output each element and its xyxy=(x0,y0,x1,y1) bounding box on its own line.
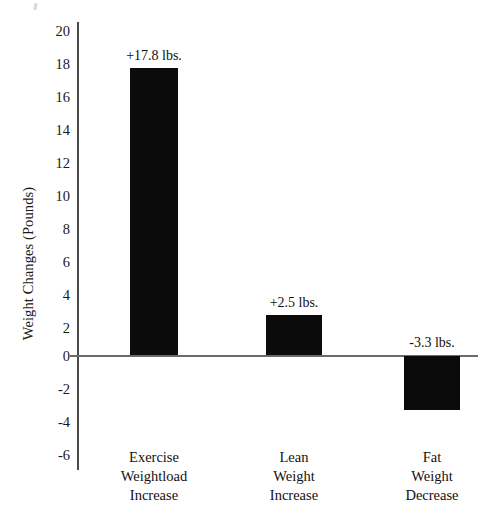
y-axis-title: Weight Changes (Pounds) xyxy=(20,164,37,364)
y-tick-label-14: 14 xyxy=(40,123,70,137)
bar-value-label-lean-weight-increase: +2.5 lbs. xyxy=(244,295,344,310)
zero-axis-tick xyxy=(70,355,78,357)
category-label-line-3: Decrease xyxy=(372,486,483,505)
y-tick-label-4: 4 xyxy=(40,288,70,302)
category-label-line-2: Weight xyxy=(372,467,483,486)
y-tick-label-neg4: -4 xyxy=(40,415,70,429)
y-tick-label-18: 18 xyxy=(40,57,70,71)
y-axis-line xyxy=(77,22,79,470)
category-label-line-2: Weightload xyxy=(94,467,214,486)
y-tick-label-0: 0 xyxy=(40,349,70,363)
bar-value-label-exercise-weightload-increase: +17.8 lbs. xyxy=(104,48,204,63)
y-tick-label-6: 6 xyxy=(40,255,70,269)
category-label-line-3: Increase xyxy=(94,486,214,505)
y-tick-label-20: 20 xyxy=(40,24,70,38)
y-tick-label-12: 12 xyxy=(40,156,70,170)
y-tick-label-neg2: -2 xyxy=(40,382,70,396)
category-label-line-2: Weight xyxy=(234,467,354,486)
bar-fat-weight-decrease xyxy=(404,356,460,410)
y-tick-label-2: 2 xyxy=(40,321,70,335)
bar-lean-weight-increase xyxy=(266,315,322,355)
scan-artifact-speck xyxy=(33,3,37,10)
bar-value-label-fat-weight-decrease: -3.3 lbs. xyxy=(382,335,482,350)
category-label-exercise-weightload-increase: Exercise Weightload Increase xyxy=(94,448,214,505)
bar-chart: Weight Changes (Pounds) 20 18 16 14 12 1… xyxy=(0,0,483,508)
category-label-line-1: Lean xyxy=(234,448,354,467)
y-tick-label-10: 10 xyxy=(40,189,70,203)
y-tick-label-8: 8 xyxy=(40,222,70,236)
y-tick-label-16: 16 xyxy=(40,90,70,104)
category-label-lean-weight-increase: Lean Weight Increase xyxy=(234,448,354,505)
y-tick-label-neg6: -6 xyxy=(40,448,70,462)
category-label-line-1: Fat xyxy=(372,448,483,467)
category-label-fat-weight-decrease: Fat Weight Decrease xyxy=(372,448,483,505)
category-label-line-1: Exercise xyxy=(94,448,214,467)
bar-exercise-weightload-increase xyxy=(130,68,178,355)
category-label-line-3: Increase xyxy=(234,486,354,505)
